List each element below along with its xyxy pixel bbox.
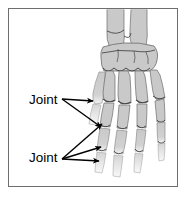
middle-finger-bones [113, 71, 131, 177]
joint-label-lower: Joint [29, 151, 58, 165]
joint-label-upper: Joint [29, 93, 58, 107]
little-finger-bones [150, 70, 165, 161]
forearm-bones [107, 9, 148, 48]
ring-finger-bones [134, 71, 148, 173]
carpal-bones [101, 43, 158, 71]
hand-skeleton-figure: Joint Joint [0, 0, 192, 197]
annotation-arrows-lower [62, 124, 102, 161]
